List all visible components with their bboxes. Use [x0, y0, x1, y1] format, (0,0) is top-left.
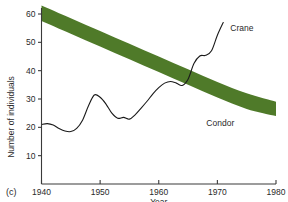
y-axis-tick-label: 60 — [26, 9, 36, 19]
y-axis-tick-label: 30 — [26, 94, 36, 104]
x-axis-tick-label: 1970 — [208, 187, 227, 197]
y-axis-tick-label: 40 — [26, 66, 36, 76]
y-axis-tick-label: 10 — [26, 151, 36, 161]
x-axis-tick-label: 1980 — [267, 187, 286, 197]
series-label-condor: Condor — [206, 118, 234, 128]
chart-canvas: 102030405060 19401950196019701980 Year N… — [0, 0, 288, 202]
y-axis-title: Number of individuals — [6, 76, 16, 158]
x-axis-tick-label: 1950 — [91, 187, 110, 197]
x-axis-tick-label: 1960 — [149, 187, 168, 197]
x-axis-title: Year — [150, 197, 167, 202]
x-axis-tick-label: 1940 — [32, 187, 51, 197]
y-axis-tick-label: 50 — [26, 37, 36, 47]
panel-label: (c) — [6, 187, 17, 197]
y-axis-tick-label: 20 — [26, 122, 36, 132]
series-label-crane: Crane — [230, 23, 253, 33]
figure-panel: 102030405060 19401950196019701980 Year N… — [0, 0, 288, 202]
